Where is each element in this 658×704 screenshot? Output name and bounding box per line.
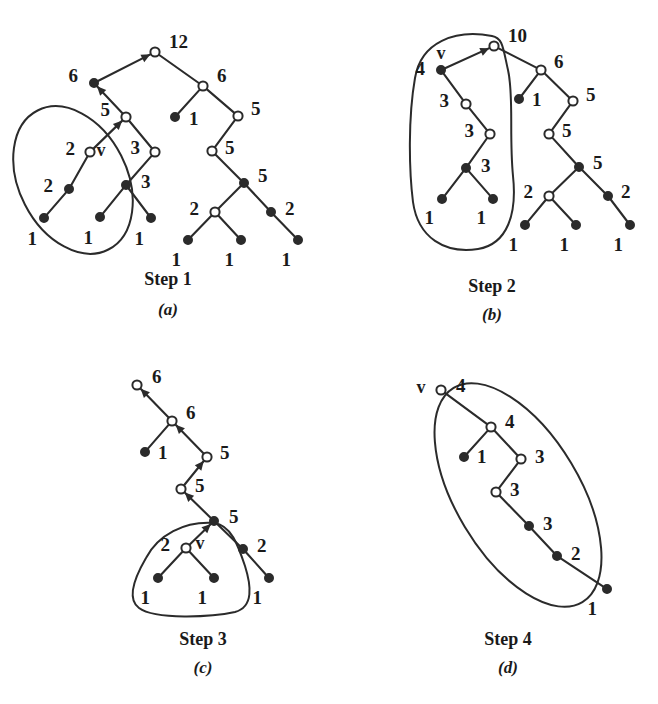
tree-node-open bbox=[181, 543, 190, 552]
tree-node-filled bbox=[575, 163, 583, 171]
node-weight-label: 5 bbox=[195, 475, 205, 496]
panel-c: 66155522111vStep 3(c) bbox=[132, 366, 273, 677]
node-weight-label: 6 bbox=[152, 366, 162, 387]
node-weight-label: 3 bbox=[510, 479, 520, 500]
vertex-v-label: v bbox=[437, 43, 446, 63]
tree-node-filled bbox=[553, 552, 561, 560]
tree-edge bbox=[499, 48, 537, 67]
panel-d: 44133321vStep 4(d) bbox=[400, 356, 635, 677]
tree-node-filled bbox=[603, 585, 611, 593]
tree-node-open bbox=[85, 147, 94, 156]
figure-canvas: 126615552352322111111vStep 1(a)104615335… bbox=[0, 0, 658, 704]
node-weight-label: 3 bbox=[543, 513, 553, 534]
tree-node-filled bbox=[122, 181, 130, 189]
selection-blob-c bbox=[133, 523, 250, 617]
node-weight-label: 6 bbox=[69, 65, 79, 86]
tree-node-filled bbox=[525, 522, 533, 530]
tree-node-open bbox=[461, 99, 470, 108]
node-weight-label: 6 bbox=[186, 402, 196, 423]
tree-node-open bbox=[544, 191, 553, 200]
node-weight-label: 2 bbox=[285, 198, 295, 219]
figure-root: 126615552352322111111vStep 1(a)104615335… bbox=[0, 0, 658, 704]
panel-subcaption-d: (d) bbox=[498, 658, 518, 677]
node-weight-label: 1 bbox=[135, 228, 145, 249]
tree-node-filled bbox=[154, 574, 162, 582]
node-weight-label: 5 bbox=[101, 99, 111, 120]
node-weight-label: 2 bbox=[44, 175, 54, 196]
tree-node-filled bbox=[40, 214, 48, 222]
tree-node-open bbox=[132, 380, 141, 389]
tree-node-filled bbox=[265, 574, 273, 582]
node-weight-label: 3 bbox=[481, 155, 491, 176]
node-weight-label: 1 bbox=[141, 587, 151, 608]
tree-node-filled bbox=[239, 545, 247, 553]
node-weight-label: 1 bbox=[509, 234, 519, 255]
tree-node-open bbox=[536, 65, 545, 74]
node-weight-label: 4 bbox=[456, 375, 466, 396]
node-weight-label: 1 bbox=[28, 228, 38, 249]
tree-edge bbox=[216, 155, 241, 180]
tree-edge bbox=[103, 188, 123, 213]
tree-node-filled bbox=[184, 236, 192, 244]
tree-edge bbox=[552, 138, 576, 164]
tree-node-filled bbox=[626, 221, 634, 229]
node-weight-label: 5 bbox=[586, 84, 596, 105]
tree-node-open bbox=[121, 112, 130, 121]
tree-node-filled bbox=[572, 221, 580, 229]
node-weight-label: 2 bbox=[257, 535, 267, 556]
tree-node-filled bbox=[462, 164, 470, 172]
node-weight-label: 3 bbox=[131, 137, 141, 158]
tree-edge bbox=[190, 552, 211, 575]
tree-edge bbox=[545, 74, 570, 98]
tree-node-filled bbox=[210, 517, 218, 525]
tree-edge bbox=[445, 393, 487, 424]
panel-subcaption-b: (b) bbox=[482, 305, 502, 324]
tree-node-filled bbox=[294, 236, 302, 244]
node-weight-label: 2 bbox=[571, 543, 581, 564]
tree-node-open bbox=[210, 207, 219, 216]
tree-node-filled bbox=[515, 95, 523, 103]
node-weight-label: 5 bbox=[251, 98, 261, 119]
node-weight-label: 3 bbox=[141, 171, 151, 192]
tree-node-filled bbox=[489, 195, 497, 203]
node-weight-label: 3 bbox=[465, 120, 475, 141]
tree-edge bbox=[445, 171, 464, 195]
tree-node-open bbox=[436, 385, 445, 394]
tree-edge bbox=[71, 157, 87, 186]
panel-subcaption-c: (c) bbox=[194, 658, 213, 677]
tree-node-open bbox=[198, 81, 207, 90]
node-weight-label: 4 bbox=[505, 411, 515, 432]
selection-ellipse-a bbox=[0, 86, 157, 274]
node-weight-label: 1 bbox=[189, 108, 199, 129]
tree-edge bbox=[528, 200, 546, 222]
tree-node-open bbox=[167, 416, 176, 425]
tree-node-filled bbox=[96, 213, 104, 221]
tree-node-filled bbox=[438, 195, 446, 203]
node-weight-label: 2 bbox=[621, 181, 631, 202]
tree-node-open bbox=[516, 454, 525, 463]
node-weight-label: 10 bbox=[508, 25, 527, 46]
node-weight-label: 3 bbox=[440, 90, 450, 111]
node-weight-label: 5 bbox=[258, 165, 268, 186]
node-weight-label: 6 bbox=[217, 65, 227, 86]
tree-node-filled bbox=[240, 179, 248, 187]
tree-edge bbox=[247, 186, 268, 209]
tree-node-filled bbox=[171, 113, 179, 121]
node-weight-label: 2 bbox=[66, 138, 76, 159]
tree-edge bbox=[159, 55, 199, 83]
tree-node-open bbox=[176, 484, 185, 493]
node-weight-label: 1 bbox=[253, 587, 263, 608]
node-weight-label: 1 bbox=[477, 446, 487, 467]
node-weight-label: 1 bbox=[198, 587, 208, 608]
tree-edge bbox=[207, 89, 234, 112]
node-weight-label: 5 bbox=[225, 137, 235, 158]
node-weight-label: 1 bbox=[425, 207, 435, 228]
tree-node-filled bbox=[521, 221, 529, 229]
panel-caption-c: Step 3 bbox=[179, 629, 227, 649]
tree-node-filled bbox=[237, 236, 245, 244]
node-weight-label: 6 bbox=[554, 51, 564, 72]
node-weight-label: 2 bbox=[161, 534, 171, 555]
tree-node-open bbox=[233, 111, 242, 120]
tree-node-open bbox=[489, 41, 498, 50]
tree-node-filled bbox=[604, 192, 612, 200]
